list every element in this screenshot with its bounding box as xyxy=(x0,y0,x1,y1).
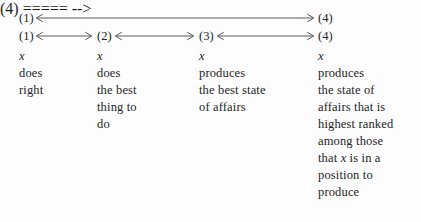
formulation-line: of affairs xyxy=(199,99,315,116)
formulation-line: affairs that is xyxy=(318,99,418,116)
text-run: do xyxy=(97,117,110,131)
formulation-line: that x is in a xyxy=(318,150,418,167)
arrow-row-outer: (1) (4) xyxy=(0,9,421,27)
formulation-line: among those xyxy=(318,133,418,150)
text-run: position to xyxy=(318,168,373,182)
formulation-line: x xyxy=(97,48,193,65)
formulation-column-2: xdoesthe bestthing todo xyxy=(97,48,193,133)
variable-x: x xyxy=(19,49,25,63)
formulation-line: does xyxy=(19,65,95,82)
text-run: is in a xyxy=(346,151,380,165)
text-run: among those xyxy=(318,134,383,148)
formulation-line: x xyxy=(199,48,315,65)
variable-x: x xyxy=(318,49,324,63)
text-run: does xyxy=(19,66,43,80)
node-label-4-inner: (4) xyxy=(318,27,333,45)
equivalence-diagram: (4) ===== --> (1) (4) (1) (2) (3) xyxy=(0,0,421,222)
formulation-line: thing to xyxy=(97,99,193,116)
node-label-1-outer: (1) xyxy=(19,9,34,27)
node-label-3-inner: (3) xyxy=(199,27,214,45)
node-label-2-inner: (2) xyxy=(97,27,112,45)
text-run: the state of xyxy=(318,83,375,97)
double-arrow-2-to-3-icon xyxy=(113,27,196,45)
formulation-line: right xyxy=(19,82,95,99)
formulation-line: produces xyxy=(318,65,418,82)
formulation-line: x xyxy=(19,48,95,65)
double-arrow-1-to-4-icon xyxy=(34,9,316,27)
formulation-line: produces xyxy=(199,65,315,82)
arrow-row-inner: (1) (2) (3) (4) xyxy=(0,27,421,45)
formulation-line: the best xyxy=(97,82,193,99)
text-run: the best state xyxy=(199,83,266,97)
formulation-line: produce xyxy=(318,184,418,201)
formulation-line: the state of xyxy=(318,82,418,99)
formulation-line: does xyxy=(97,65,193,82)
text-run: of affairs xyxy=(199,100,246,114)
node-label-1-inner: (1) xyxy=(19,27,34,45)
formulation-line: do xyxy=(97,116,193,133)
formulation-line: the best state xyxy=(199,82,315,99)
formulation-column-3: xproducesthe best stateof affairs xyxy=(199,48,315,116)
text-run: affairs that is xyxy=(318,100,385,114)
text-run: right xyxy=(19,83,43,97)
formulation-line: highest ranked xyxy=(318,116,418,133)
formulation-column-4: xproducesthe state ofaffairs that ishigh… xyxy=(318,48,418,201)
text-run: does xyxy=(97,66,121,80)
variable-x: x xyxy=(199,49,205,63)
node-label-4-outer: (4) xyxy=(318,9,333,27)
double-arrow-3-to-4-icon xyxy=(215,27,316,45)
formulation-column-1: xdoesright xyxy=(19,48,95,99)
double-arrow-1-to-2-icon xyxy=(34,27,94,45)
text-run: produce xyxy=(318,185,359,199)
text-run: produces xyxy=(318,66,364,80)
text-run: thing to xyxy=(97,100,137,114)
text-run: the best xyxy=(97,83,137,97)
text-run: that xyxy=(318,151,341,165)
variable-x: x xyxy=(97,49,103,63)
formulation-line: x xyxy=(318,48,418,65)
text-run: produces xyxy=(199,66,245,80)
formulation-line: position to xyxy=(318,167,418,184)
text-run: highest ranked xyxy=(318,117,393,131)
